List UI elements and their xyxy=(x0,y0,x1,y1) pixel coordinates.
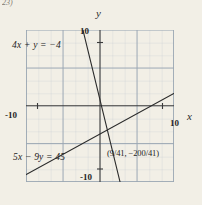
graph-figure: 23) xyxy=(0,0,202,205)
y-axis-label: y xyxy=(96,7,101,19)
intersection-point-label: (9/41, −200/41) xyxy=(107,148,159,158)
line-4x-plus-y-equals-neg4 xyxy=(81,30,122,182)
x-axis-tick-neg10: -10 xyxy=(5,110,17,120)
problem-number: 23) xyxy=(2,0,13,7)
y-axis-tick-neg10: -10 xyxy=(80,172,92,182)
x-axis-tick-10: 10 xyxy=(170,118,179,128)
y-axis-tick-10: 10 xyxy=(80,26,89,36)
equation-label-1: 4x + y = −4 xyxy=(12,40,61,50)
equation-label-2: 5x − 9y = 45 xyxy=(13,152,65,162)
line-5x-minus-9y-equals-45 xyxy=(26,90,174,178)
x-axis-label: x xyxy=(187,110,192,122)
